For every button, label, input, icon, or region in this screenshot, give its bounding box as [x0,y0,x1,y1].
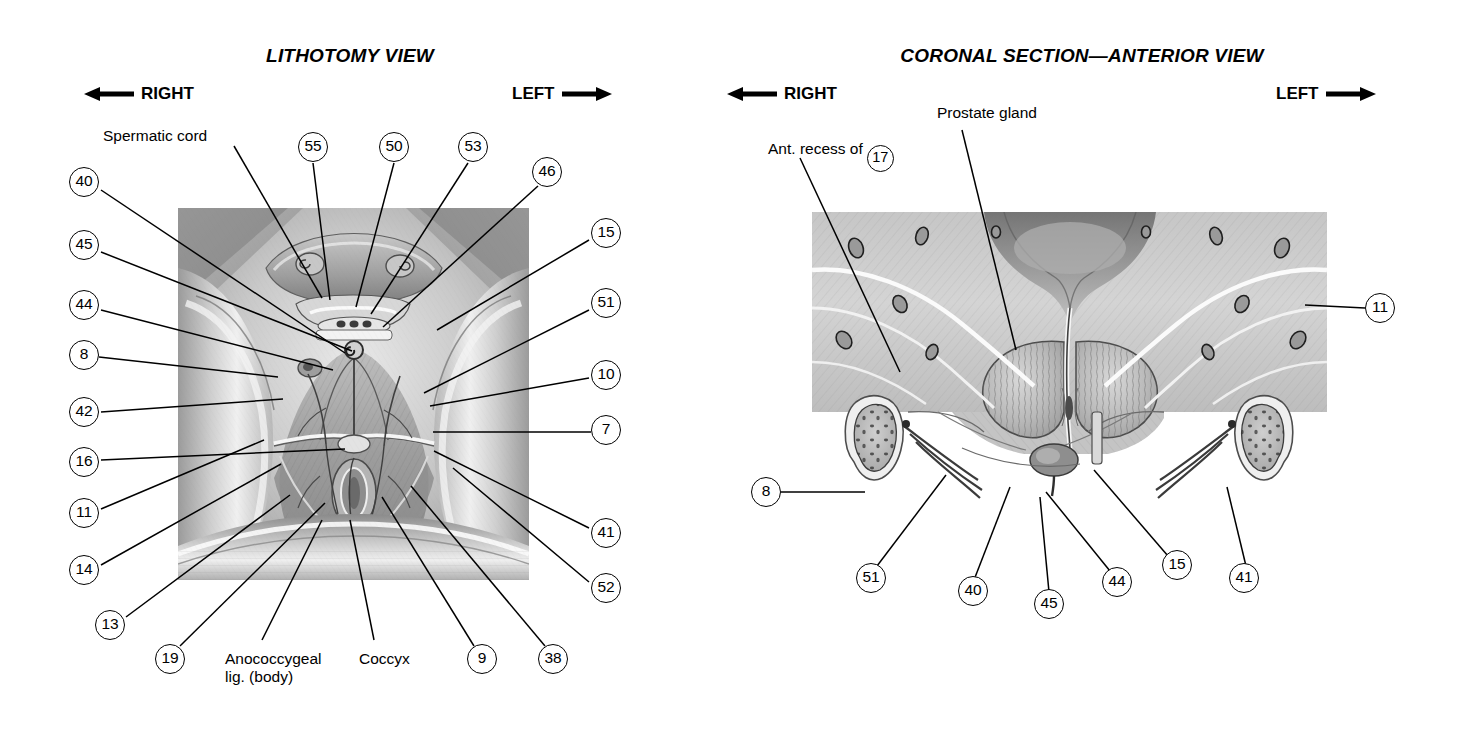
direction-label-right: RIGHT [784,84,837,104]
callout-38[interactable]: 38 [538,644,568,674]
direction-indicator-right-coronal: RIGHT [727,84,837,104]
callout-40[interactable]: 40 [69,167,99,197]
callout-52[interactable]: 52 [591,573,621,603]
right-arrow-icon [1326,86,1376,102]
callout-9[interactable]: 9 [467,644,497,674]
callout-41-coronal[interactable]: 41 [1229,563,1259,593]
label-prostate-gland: Prostate gland [937,104,1037,122]
callout-15-coronal[interactable]: 15 [1162,550,1192,580]
callout-55[interactable]: 55 [298,132,328,162]
callout-11[interactable]: 11 [69,498,99,528]
callout-8-coronal[interactable]: 8 [751,477,781,507]
callout-40-coronal[interactable]: 40 [958,576,988,606]
callout-14[interactable]: 14 [69,555,99,585]
panel-title-lithotomy: LITHOTOMY VIEW [0,45,700,67]
callout-13[interactable]: 13 [95,610,125,640]
panel-lithotomy-view: LITHOTOMY VIEW RIGHT LEFT [0,0,700,734]
label-anococcygeal-ligament: Anococcygeal lig. (body) [225,650,355,686]
callout-45-coronal[interactable]: 45 [1034,589,1064,619]
callout-45[interactable]: 45 [69,230,99,260]
callout-19[interactable]: 19 [155,644,185,674]
label-spermatic-cord: Spermatic cord [103,127,207,145]
callout-15[interactable]: 15 [591,218,621,248]
callout-51-coronal[interactable]: 51 [856,563,886,593]
label-anterior-recess-of: Ant. recess of17 [768,140,894,172]
callout-10[interactable]: 10 [591,360,621,390]
callout-53[interactable]: 53 [458,132,488,162]
direction-label-left: LEFT [1276,84,1319,104]
callout-41[interactable]: 41 [591,518,621,548]
callout-8[interactable]: 8 [69,340,99,370]
callout-51[interactable]: 51 [591,288,621,318]
direction-indicator-left-coronal: LEFT [1276,84,1376,104]
right-arrow-icon [562,86,612,102]
anococcygeal-line1: Anococcygeal [225,650,322,667]
left-arrow-icon [727,86,777,102]
label-coccyx: Coccyx [359,650,410,668]
callout-44-coronal[interactable]: 44 [1102,567,1132,597]
artwork-prostate-coronal [812,212,1327,512]
callout-7[interactable]: 7 [591,415,621,445]
anococcygeal-line2: lig. (body) [225,668,293,685]
direction-indicator-right: RIGHT [84,84,194,104]
panel-coronal-section: CORONAL SECTION—ANTERIOR VIEW RIGHT LEFT [700,0,1464,734]
artwork-perineum-lithotomy [178,208,529,580]
callout-17[interactable]: 17 [867,145,894,172]
callout-16[interactable]: 16 [69,447,99,477]
callout-50[interactable]: 50 [379,132,409,162]
direction-label-left: LEFT [512,84,555,104]
direction-indicator-left: LEFT [512,84,612,104]
panel-title-coronal: CORONAL SECTION—ANTERIOR VIEW [700,45,1464,67]
anterior-recess-text: Ant. recess of [768,140,863,157]
callout-44[interactable]: 44 [69,290,99,320]
callout-42[interactable]: 42 [69,397,99,427]
callout-46[interactable]: 46 [532,157,562,187]
left-arrow-icon [84,86,134,102]
anatomy-figure-page: LITHOTOMY VIEW RIGHT LEFT [0,0,1464,734]
direction-label-right: RIGHT [141,84,194,104]
callout-11-coronal[interactable]: 11 [1365,293,1395,323]
